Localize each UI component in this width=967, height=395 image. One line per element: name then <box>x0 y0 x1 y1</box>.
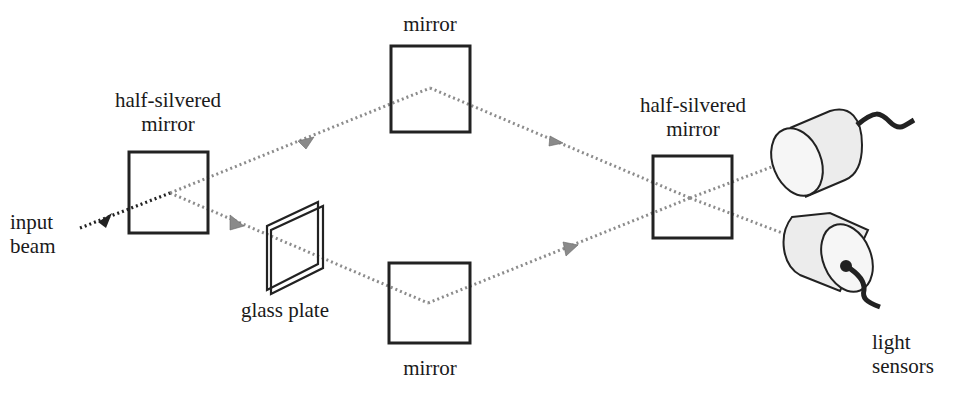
beam-to-sensor-bottom <box>690 198 785 234</box>
arrow-lower-in-icon <box>230 215 244 230</box>
interferometer-diagram <box>0 0 967 395</box>
light-sensor-bottom <box>784 213 883 307</box>
arrow-lower-out-icon <box>563 242 578 256</box>
label-left-half-silvered-mirror: half-silvered mirror <box>103 88 233 136</box>
label-light-sensors: light sensors <box>872 330 967 378</box>
label-bottom-mirror: mirror <box>380 356 480 380</box>
light-sensor-top <box>762 110 914 204</box>
label-input-beam: input beam <box>10 210 80 258</box>
label-line: light <box>872 330 967 354</box>
label-line: half-silvered <box>103 88 233 112</box>
arrow-upper-out-icon <box>549 136 563 146</box>
beam-lower-out <box>428 198 690 303</box>
right-half-silvered-mirror <box>653 156 732 238</box>
label-line: mirror <box>103 112 233 136</box>
label-line: beam <box>10 234 80 258</box>
input-beam-line <box>80 193 170 228</box>
label-line: half-silvered <box>628 93 758 117</box>
label-right-half-silvered-mirror: half-silvered mirror <box>628 93 758 141</box>
label-line: mirror <box>628 117 758 141</box>
label-top-mirror: mirror <box>380 12 480 36</box>
label-line: input <box>10 210 80 234</box>
glass-plate <box>267 202 323 294</box>
label-line: sensors <box>872 354 967 378</box>
label-glass-plate: glass plate <box>225 298 345 322</box>
